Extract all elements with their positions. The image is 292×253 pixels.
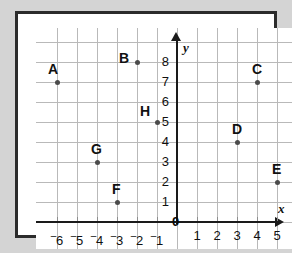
point-label-e: E bbox=[272, 162, 281, 176]
y-axis-label: 7 bbox=[152, 75, 169, 88]
negative-sign: – bbox=[51, 230, 56, 241]
x-axis-tick bbox=[77, 217, 78, 221]
y-axis-label: 8 bbox=[152, 55, 169, 68]
point-label-a: A bbox=[48, 62, 58, 76]
point-label-g: G bbox=[91, 142, 102, 156]
x-axis-tick bbox=[217, 217, 218, 221]
x-axis-label: –1 bbox=[145, 229, 169, 247]
data-point bbox=[135, 60, 140, 65]
point-label-c: C bbox=[252, 62, 262, 76]
plot-area: –6–5–4–3–2–1123456123456780xyABCDEFGHI bbox=[36, 28, 292, 249]
origin-label: 0 bbox=[172, 215, 179, 228]
data-point bbox=[255, 80, 260, 85]
x-axis-tick bbox=[57, 217, 58, 221]
y-axis bbox=[176, 41, 178, 224]
y-axis-label: 2 bbox=[152, 175, 169, 188]
data-point bbox=[155, 120, 160, 125]
x-axis-tick bbox=[157, 217, 158, 221]
y-axis-label: 1 bbox=[152, 195, 169, 208]
data-point bbox=[235, 140, 240, 145]
data-point bbox=[55, 80, 60, 85]
x-axis-tick bbox=[237, 217, 238, 221]
y-axis-arrow bbox=[171, 32, 181, 41]
x-axis-name: x bbox=[278, 202, 285, 215]
negative-sign: – bbox=[111, 230, 116, 241]
x-axis-tick bbox=[197, 217, 198, 221]
x-axis-tick bbox=[117, 217, 118, 221]
x-axis-label: 6 bbox=[285, 229, 292, 242]
point-label-f: F bbox=[112, 182, 121, 196]
negative-sign: – bbox=[91, 230, 96, 241]
x-axis-tick bbox=[97, 217, 98, 221]
negative-sign: – bbox=[151, 230, 156, 241]
point-label-d: D bbox=[232, 122, 242, 136]
figure-frame: –6–5–4–3–2–1123456123456780xyABCDEFGHI bbox=[15, 11, 277, 238]
point-label-h: H bbox=[140, 104, 150, 118]
point-label-b: B bbox=[119, 51, 129, 65]
data-point bbox=[275, 180, 280, 185]
y-axis-label: 6 bbox=[152, 95, 169, 108]
y-axis-label: 4 bbox=[152, 135, 169, 148]
x-axis-tick bbox=[137, 217, 138, 221]
y-axis-name: y bbox=[183, 41, 189, 54]
y-axis-label: 3 bbox=[152, 155, 169, 168]
coordinate-plane-figure: –6–5–4–3–2–1123456123456780xyABCDEFGHI bbox=[0, 0, 292, 253]
x-axis bbox=[36, 221, 276, 223]
x-axis-tick bbox=[257, 217, 258, 221]
negative-sign: – bbox=[71, 230, 76, 241]
gridline-horizontal bbox=[36, 42, 292, 43]
data-point bbox=[95, 160, 100, 165]
x-axis-tick bbox=[277, 217, 278, 221]
data-point bbox=[115, 200, 120, 205]
negative-sign: – bbox=[131, 230, 136, 241]
